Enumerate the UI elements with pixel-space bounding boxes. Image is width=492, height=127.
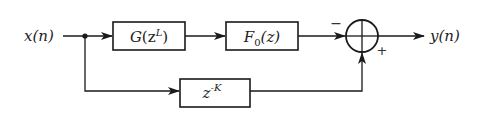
summing-junction-icon — [346, 20, 378, 52]
f0-block-label: F0(z) — [243, 28, 281, 48]
delay-block: z-K — [180, 79, 250, 107]
output-label: y(n) — [429, 27, 460, 45]
g-block-label: G(zL) — [130, 27, 168, 46]
minus-sign: − — [330, 15, 342, 31]
g-block: G(zL) — [113, 22, 185, 50]
plus-sign: + — [377, 43, 388, 58]
delay-to-sum-arrow — [250, 53, 362, 91]
block-diagram: x(n) G(zL) F0(z) − + y(n) z-K — [0, 0, 492, 127]
f0-block: F0(z) — [226, 22, 298, 50]
input-label: x(n) — [24, 27, 54, 45]
